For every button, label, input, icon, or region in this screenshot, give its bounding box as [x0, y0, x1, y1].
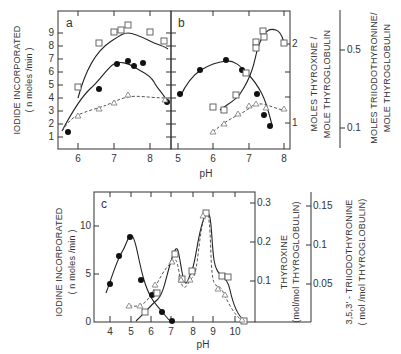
panel-a-x-ticks: 6 7 8	[75, 153, 153, 164]
panel-b-t3-tick-01: 0.1	[347, 122, 361, 133]
svg-text:3,5,3' - TRIIODOTHYRONINE: 3,5,3' - TRIIODOTHYRONINE	[344, 199, 354, 324]
panel-c-label: c	[101, 197, 107, 211]
panel-a-y-axis-title: IODIDE INCORPORATED ( n moles /min )	[12, 25, 34, 134]
svg-text:1: 1	[48, 131, 54, 142]
svg-text:IODINE INCORPORATED: IODINE INCORPORATED	[54, 207, 64, 316]
svg-text:( n moles /min ): ( n moles /min )	[67, 229, 77, 294]
panel-c-thyroxine-ticks: 0.3 0.2 0.1	[250, 197, 271, 286]
svg-text:( n moles /min ): ( n moles /min )	[24, 47, 34, 112]
panel-b-triangle-markers	[210, 101, 287, 134]
figure: 1 2 3 4 5 6 7 8 9 6 7 8 a IODIDE INCORPO…	[0, 0, 401, 354]
svg-text:5: 5	[85, 268, 91, 279]
svg-text:6: 6	[48, 66, 54, 77]
panel-c: 4 5 6 7 8 9 10 pH 0 5 10 c IODINE INCORP…	[54, 192, 367, 350]
panel-c-circle-markers	[107, 234, 175, 324]
svg-text:7: 7	[111, 153, 117, 164]
svg-text:3: 3	[48, 105, 54, 116]
panel-c-x-axis-title: pH	[197, 339, 210, 350]
panel-c-x-ticks: 4 5 6 7 8 9 10	[107, 326, 241, 337]
svg-text:MOLES TRIIODOTHYRONINE/: MOLES TRIIODOTHYRONINE/	[369, 12, 379, 144]
svg-text:MOLES THYROXINE /: MOLES THYROXINE /	[309, 36, 319, 131]
svg-text:( mol /mol THYROGLOBULIN): ( mol /mol THYROGLOBULIN)	[357, 199, 367, 326]
panel-a-circle-markers	[65, 58, 170, 135]
panel-b-right-tick-1: 1	[292, 117, 298, 128]
svg-text:7: 7	[246, 153, 252, 164]
panel-a-y-ticks: 1 2 3 4 5 6 7 8 9	[48, 27, 63, 142]
panel-c-top-ticks	[110, 192, 235, 197]
panel-c-triangle-markers	[126, 213, 245, 322]
panel-ab-x-axis-title: pH	[200, 168, 213, 179]
svg-text:MOLE THYROGLOBULIN: MOLE THYROGLOBULIN	[382, 24, 392, 132]
svg-text:0.15: 0.15	[313, 200, 333, 211]
svg-text:10: 10	[80, 220, 92, 231]
svg-text:9: 9	[210, 326, 216, 337]
panel-b-circle-markers	[177, 57, 273, 129]
panel-a-circles-curve	[62, 63, 167, 131]
svg-text:8: 8	[190, 326, 196, 337]
panel-a-triangle-markers	[75, 92, 168, 118]
svg-text:MOLE THYROGLOBULIN: MOLE THYROGLOBULIN	[322, 30, 332, 138]
panel-b-square-markers	[210, 28, 287, 113]
svg-text:8: 8	[281, 153, 287, 164]
panel-c-t3-ticks: 0.15 0.1 0.05	[306, 200, 333, 289]
svg-text:4: 4	[48, 92, 54, 103]
panel-c-t3-axis-title: 3,5,3' - TRIIODOTHYRONINE ( mol /mol THY…	[344, 199, 367, 326]
svg-text:4: 4	[107, 326, 113, 337]
panel-b-right-tick-2: 2	[292, 38, 298, 49]
svg-text:9: 9	[48, 27, 54, 38]
panel-c-y-axis-title: IODINE INCORPORATED ( n moles /min )	[54, 207, 77, 316]
svg-text:0: 0	[85, 316, 91, 327]
panel-c-thyroxine-axis-title: THYROXINE (mol/mol THYROGLOBULIN)	[279, 201, 301, 322]
svg-text:8: 8	[147, 153, 153, 164]
svg-text:5: 5	[128, 326, 134, 337]
svg-text:10: 10	[229, 326, 241, 337]
svg-text:5: 5	[175, 153, 181, 164]
panel-b-squares-curve	[220, 29, 284, 110]
svg-text:6: 6	[148, 326, 154, 337]
svg-text:0.1: 0.1	[313, 239, 327, 250]
panel-c-triangles-curve	[129, 214, 242, 320]
panel-a-label: a	[66, 16, 73, 30]
panel-b-t3-axis-title: MOLES TRIIODOTHYRONINE/ MOLE THYROGLOBUL…	[369, 12, 392, 144]
svg-text:7: 7	[168, 326, 174, 337]
svg-text:THYROXINE: THYROXINE	[279, 235, 289, 289]
svg-text:2: 2	[48, 118, 54, 129]
svg-text:5: 5	[48, 79, 54, 90]
svg-text:6: 6	[75, 153, 81, 164]
svg-text:0.3: 0.3	[257, 197, 271, 208]
panel-b: 2 1 5 6 7 8 pH b MOLES THYROXINE / MOLE …	[166, 10, 392, 179]
svg-text:0.05: 0.05	[313, 278, 333, 289]
panel-b-x-ticks: 5 6 7 8	[175, 153, 287, 164]
svg-text:6: 6	[210, 153, 216, 164]
panel-c-squares-curve	[136, 213, 244, 321]
panel-b-label: b	[178, 16, 185, 30]
svg-text:0.1: 0.1	[257, 275, 271, 286]
panel-a: 1 2 3 4 5 6 7 8 9 6 7 8 a IODIDE INCORPO…	[12, 11, 171, 164]
svg-text:0.2: 0.2	[257, 236, 271, 247]
svg-text:IODIDE INCORPORATED: IODIDE INCORPORATED	[12, 25, 22, 134]
svg-text:7: 7	[48, 53, 54, 64]
panel-b-thyroxine-axis-title: MOLES THYROXINE / MOLE THYROGLOBULIN	[309, 30, 332, 138]
panel-c-y-ticks: 0 5 10	[80, 220, 99, 327]
svg-text:8: 8	[48, 40, 54, 51]
svg-text:(mol/mol THYROGLOBULIN): (mol/mol THYROGLOBULIN)	[291, 201, 301, 322]
panel-b-frame	[171, 11, 290, 149]
panel-b-t3-tick-05: 0.5	[347, 44, 361, 55]
